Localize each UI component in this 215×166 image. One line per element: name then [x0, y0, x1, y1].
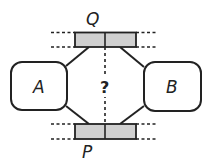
center-question-mark: ? — [100, 78, 109, 97]
top-bar-q — [75, 33, 136, 48]
label-q: Q — [86, 9, 99, 29]
label-b: B — [166, 77, 178, 97]
bottom-bar-p — [75, 124, 136, 139]
diagram-canvas: Q P A B ? — [0, 0, 215, 166]
label-p: P — [82, 142, 93, 162]
label-a: A — [32, 77, 45, 97]
